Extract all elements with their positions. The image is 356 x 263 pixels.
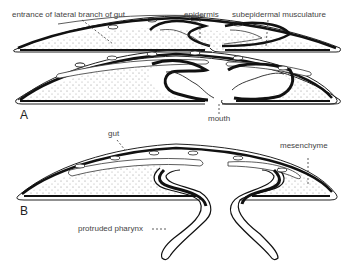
- label-epidermis: epidermis: [184, 10, 219, 19]
- label-subepidermal-musculature: subepidermal musculature: [232, 10, 326, 19]
- label-protruded-pharynx: protruded pharynx: [78, 224, 143, 233]
- panel-b-letter: B: [20, 204, 28, 218]
- label-lateral-branch: entrance of lateral branch of gut: [12, 10, 125, 19]
- panel-a-letter: A: [20, 108, 28, 122]
- panel-a-shape: [18, 50, 337, 104]
- label-mesenchyme: mesenchyme: [280, 141, 328, 150]
- label-mouth: mouth: [208, 114, 230, 123]
- label-gut: gut: [108, 129, 119, 138]
- panel-b-shape: [17, 144, 337, 260]
